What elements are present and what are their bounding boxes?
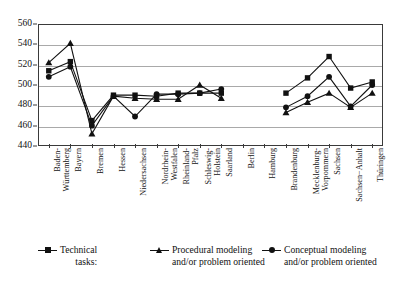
series-layer [38,24,383,146]
y-tick-mark-520 [33,64,37,65]
data-point [88,130,95,136]
y-tick-label-440: 440 [18,141,32,151]
chart-container: 440460480500520540560 Baden- Württemberg… [0,0,405,282]
y-tick-mark-480 [33,105,37,106]
data-point [283,90,288,95]
legend-item-triangle: Procedural modeling and/or problem orien… [150,244,265,267]
data-point [89,123,95,129]
x-tick-mark [92,144,93,148]
data-point [196,82,203,88]
data-point [304,99,311,105]
data-point [218,86,224,92]
x-tick-mark [351,144,352,148]
legend-label: Conceptual modeling and/or problem orien… [284,244,377,267]
data-point [348,103,354,109]
data-point [111,93,117,99]
x-tick-mark [221,144,222,148]
x-tick-label: Bayern [74,148,83,240]
data-point [348,85,353,90]
chart-legend: Technical tasks:Procedural modeling and/… [0,244,405,282]
y-tick-label-500: 500 [18,80,32,90]
y-tick-label-520: 520 [18,60,32,70]
y-tick-label-560: 560 [18,19,32,29]
x-tick-label: Sachsen [333,148,342,240]
x-axis: Baden- WürttembergBayernBremenHessenNied… [38,148,383,240]
x-tick-mark [308,144,309,148]
x-tick-mark [135,144,136,148]
data-point [326,74,332,80]
data-point [369,82,375,88]
x-tick-mark [178,144,179,148]
x-tick-label: Rheinland- Pfalz [182,148,200,240]
x-tick-mark [200,144,201,148]
y-tick-label-460: 460 [18,121,32,131]
circle-marker-icon [262,245,281,256]
x-tick-label: Sachsen−Anhalt [355,148,364,240]
y-tick-label-480: 480 [18,101,32,111]
x-tick-label: Berlin [247,148,256,240]
x-tick-mark [372,144,373,148]
series-line [49,43,222,133]
x-tick-label: Hessen [118,148,127,240]
x-tick-mark [114,144,115,148]
data-point [67,64,73,70]
x-tick-label: Schleswig- Holstein [204,148,222,240]
data-point [67,40,74,46]
data-point [197,90,203,96]
x-tick-label: Nordrhein- Westfalen [161,148,179,240]
x-tick-label: Niedersachsen [139,148,148,240]
x-tick-label: Brandenburg [290,148,299,240]
legend-label: Technical tasks: [60,244,97,267]
x-tick-mark [243,144,244,148]
x-tick-mark [329,144,330,148]
data-point [369,90,376,96]
y-tick-mark-460 [33,125,37,126]
legend-item-square: Technical tasks: [38,244,97,267]
y-tick-mark-560 [33,24,37,25]
y-axis: 440460480500520540560 [0,24,36,146]
data-point [305,93,311,99]
series-circle [46,64,375,129]
series-line [286,93,372,112]
series-square [46,54,375,123]
x-tick-mark [49,144,50,148]
square-marker-icon [38,245,57,256]
data-point [46,74,52,80]
y-tick-mark-540 [33,44,37,45]
x-tick-mark [286,144,287,148]
triangle-marker-icon [150,245,169,256]
data-point [283,104,289,110]
x-tick-mark [157,144,158,148]
legend-item-circle: Conceptual modeling and/or problem orien… [262,244,377,267]
x-tick-label: Thüringen [376,148,385,240]
data-point [154,91,160,97]
data-point [326,54,331,59]
x-tick-label: Bremen [96,148,105,240]
x-tick-mark [70,144,71,148]
x-tick-label: Saarland [225,148,234,240]
y-tick-mark-440 [33,146,37,147]
y-tick-mark-500 [33,85,37,86]
x-tick-label: Mecklenburg- Vorpommern [312,148,330,240]
series-line [49,62,222,121]
data-point [305,75,310,80]
x-tick-label: Baden- Württemberg [53,148,71,240]
data-point [46,68,51,73]
data-point [326,90,333,96]
data-point [68,59,73,64]
data-point [132,114,138,120]
legend-label: Procedural modeling and/or problem orien… [172,244,265,267]
x-tick-mark [264,144,265,148]
x-tick-label: Hamburg [268,148,277,240]
y-tick-label-540: 540 [18,40,32,50]
data-point [175,91,181,97]
